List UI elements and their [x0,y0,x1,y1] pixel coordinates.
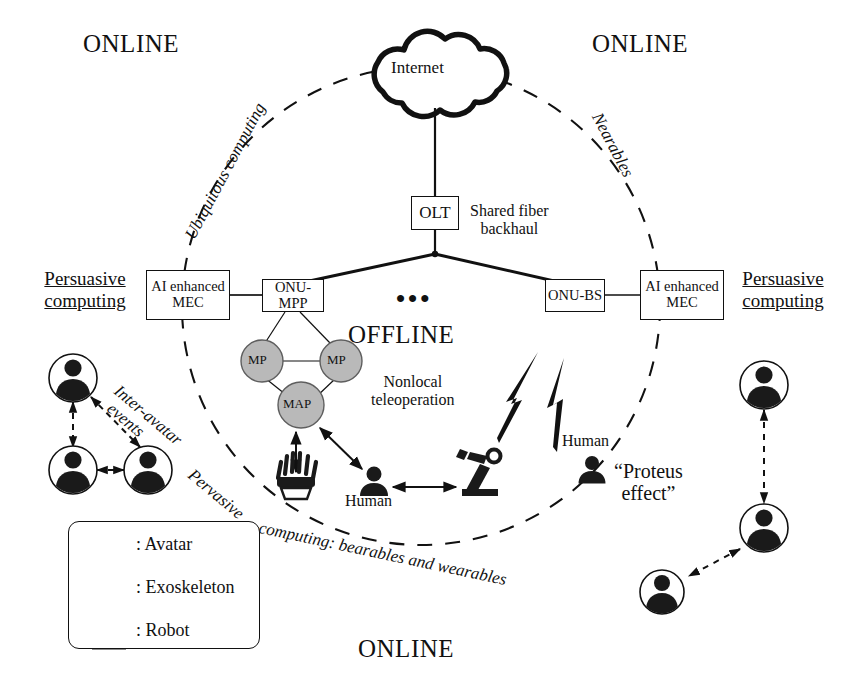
internet-cloud-label: Internet [391,59,444,77]
ellipsis-more-onus: ••• [396,285,432,312]
persuasive-computing-label-left: Persuasive computing [28,268,142,312]
olt-box[interactable]: OLT [411,196,459,230]
nonlocal-line-2: teleoperation [371,391,455,408]
human-label-center: Human [345,492,392,510]
mec-left-line-1: AI enhanced [151,278,225,294]
backhaul-line-2: backhaul [480,220,538,237]
splitter-node [432,251,438,257]
proteus-line-2: effect” [621,482,675,504]
persuasive-right-line-2: computing [742,290,823,311]
legend-item-robot: : Robot [136,620,190,641]
legend-label-avatar: : Avatar [136,534,192,555]
arrow-map-human [320,428,362,469]
avatar-icon-b1 [740,361,788,409]
link-split-onu-bs [435,254,563,283]
persuasive-left-line-1: Persuasive [44,268,125,289]
shared-fiber-backhaul-label: Shared fiber backhaul [470,202,549,238]
figure-canvas: ONLINE ONLINE ONLINE OFFLINE Internet OL… [0,0,841,684]
nonlocal-teleoperation-label: Nonlocal teleoperation [371,373,455,409]
legend-item-avatar: : Avatar [136,534,192,555]
human-label-right: Human [562,432,609,450]
human-icon-right [579,456,606,484]
olt-label: OLT [419,204,451,222]
mec-right-line-1: AI enhanced [645,278,719,294]
legend-label-exoskeleton: : Exoskeleton [136,577,234,598]
persuasive-computing-label-right: Persuasive computing [726,268,840,312]
proteus-line-1: “Proteus [614,460,683,482]
legend-item-exoskeleton: : Exoskeleton [136,577,234,598]
onu-bs-label: ONU-BS [548,288,602,304]
link-onumpp-mp2 [300,312,330,343]
zone-label-online-bottom: ONLINE [358,636,454,662]
arrow-avatar-b2-b3 [689,549,740,576]
link-onumpp-mp1 [265,312,285,343]
mec-box-left[interactable]: AI enhanced MEC [146,270,230,320]
mec-left-line-2: MEC [172,294,203,310]
lightning-bolt-icon-1 [497,352,538,443]
onu-mpp-box[interactable]: ONU-MPP [262,279,324,312]
onu-mpp-label: ONU-MPP [263,280,323,311]
robot-icon-center [456,449,501,496]
mesh-node-label-mp2: MP [327,353,346,367]
proteus-effect-label: “Proteus effect” [614,460,683,505]
persuasive-right-line-1: Persuasive [742,268,823,289]
nonlocal-line-1: Nonlocal [383,373,442,390]
avatar-icon-b3 [640,570,684,614]
mesh-node-label-mp1: MP [248,353,267,367]
avatar-icon-a1 [49,354,97,402]
persuasive-left-line-2: computing [44,290,125,311]
zone-label-online-top-right: ONLINE [592,31,688,57]
zone-label-offline: OFFLINE [348,322,454,348]
backhaul-line-1: Shared fiber [470,202,549,219]
onu-bs-box[interactable]: ONU-BS [545,279,605,312]
zone-label-online-top-left: ONLINE [83,31,179,57]
mec-box-right[interactable]: AI enhanced MEC [640,270,724,320]
avatar-icon-a2 [49,446,97,494]
legend-label-robot: : Robot [136,620,190,641]
mesh-node-label-map: MAP [283,397,311,411]
avatar-icon-b2 [740,504,788,552]
mec-right-line-2: MEC [666,294,697,310]
